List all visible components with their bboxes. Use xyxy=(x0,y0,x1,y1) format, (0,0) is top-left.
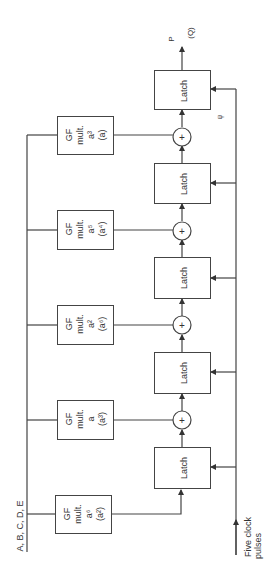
latch-label: Latch xyxy=(179,345,189,402)
plus-icon: + xyxy=(179,226,185,237)
plus-icon: + xyxy=(179,415,185,426)
coef-label: a⁶ xyxy=(84,489,95,539)
plus-icon: + xyxy=(179,320,185,331)
latch-label: Latch xyxy=(179,250,189,307)
latch-4: Latch xyxy=(154,352,211,394)
latch-label: Latch xyxy=(179,156,189,213)
gf-mult-2: GF mult. a⁵ (a⁴) xyxy=(57,210,114,250)
mult-label: mult. xyxy=(75,299,86,349)
small-mark: ψ xyxy=(215,112,225,122)
latch-1: Latch xyxy=(154,70,211,110)
latch-label: Latch xyxy=(179,63,189,120)
alt-coef-label: (a³) xyxy=(97,394,108,444)
alt-coef-label: (a⁴) xyxy=(97,204,108,254)
alt-coef-label: (a⁶) xyxy=(97,299,108,349)
adder-3: + xyxy=(173,316,191,334)
adder-1: + xyxy=(173,128,191,146)
latch-5: Latch xyxy=(154,447,211,489)
gf-mult-1: GF mult. a³ (a) xyxy=(57,116,114,155)
coef-label: a² xyxy=(86,299,97,349)
latch-2: Latch xyxy=(154,163,211,204)
gf-label: GF xyxy=(64,204,75,254)
mult-label: mult. xyxy=(75,394,86,444)
output-q-label: (Q) xyxy=(186,23,196,43)
gf-label: GF xyxy=(64,394,75,444)
gf-mult-4: GF mult. a (a³) xyxy=(57,400,114,440)
gf-label: GF xyxy=(64,110,75,160)
coef-label: a xyxy=(86,394,97,444)
alt-coef-label: (a) xyxy=(97,110,108,160)
adder-4: + xyxy=(173,411,191,429)
mult-label: mult. xyxy=(73,489,84,539)
clock-label-line1: Five clock xyxy=(243,512,253,562)
gf-label: GF xyxy=(64,299,75,349)
coef-label: a⁵ xyxy=(86,204,97,254)
coef-label: a³ xyxy=(86,110,97,160)
clock-label: Five clock pulses xyxy=(243,512,263,562)
gf-mult-3: GF mult. a² (a⁶) xyxy=(57,305,114,345)
plus-icon: + xyxy=(179,132,185,143)
gf-label: GF xyxy=(62,489,73,539)
output-p-label: P xyxy=(167,33,177,45)
adder-2: + xyxy=(173,222,191,240)
gf-mult-5: GF mult. a⁶ (a²) xyxy=(55,495,112,534)
diagram-wires xyxy=(0,0,266,583)
latch-label: Latch xyxy=(179,440,189,497)
latch-3: Latch xyxy=(154,257,211,299)
alt-coef-label: (a²) xyxy=(95,489,106,539)
mult-label: mult. xyxy=(75,110,86,160)
mult-label: mult. xyxy=(75,204,86,254)
clock-label-line2: pulses xyxy=(253,512,263,562)
bus-label: A, B, C, D, E xyxy=(15,494,25,558)
